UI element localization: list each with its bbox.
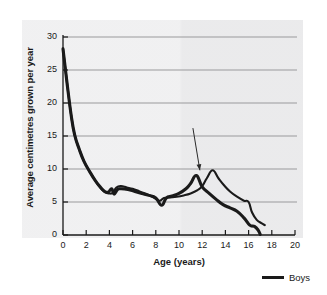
x-tick-label: 10 xyxy=(169,240,189,250)
legend-swatch-boys xyxy=(262,276,284,280)
plot-svg xyxy=(0,0,327,295)
x-tick-label: 12 xyxy=(192,240,212,250)
series-line-girls xyxy=(63,49,260,234)
growth-spurt-arrow xyxy=(193,128,200,170)
y-tick-label: 25 xyxy=(39,64,57,74)
x-tick-label: 20 xyxy=(285,240,305,250)
gridlines xyxy=(63,37,297,202)
x-tick-label: 16 xyxy=(239,240,259,250)
y-tick-label: 30 xyxy=(39,31,57,41)
y-tick-label: 5 xyxy=(39,196,57,206)
x-tick-label: 14 xyxy=(215,240,235,250)
growth-velocity-chart: Average centimetres grown per year Age (… xyxy=(0,0,327,295)
y-axis-label: Average centimetres grown per year xyxy=(24,33,35,223)
x-tick-label: 6 xyxy=(123,240,143,250)
y-tick-label: 15 xyxy=(39,130,57,140)
x-tick-label: 4 xyxy=(99,240,119,250)
data-series xyxy=(63,49,265,234)
x-tick-label: 8 xyxy=(146,240,166,250)
y-tick-label: 20 xyxy=(39,97,57,107)
series-line-boys xyxy=(63,49,265,225)
y-tick-label: 0 xyxy=(39,229,57,239)
x-tick-label: 0 xyxy=(53,240,73,250)
x-axis-label: Age (years) xyxy=(63,256,295,267)
legend: Boys xyxy=(262,272,310,283)
x-tick-label: 18 xyxy=(262,240,282,250)
legend-label-boys: Boys xyxy=(289,272,310,283)
x-tick-label: 2 xyxy=(76,240,96,250)
axis-lines xyxy=(63,35,295,235)
annotation-layer xyxy=(193,128,201,170)
y-tick-label: 10 xyxy=(39,163,57,173)
